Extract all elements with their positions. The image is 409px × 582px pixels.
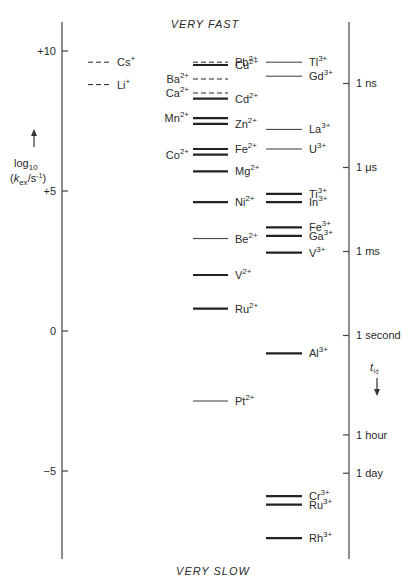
svg-text:log10: log10	[14, 157, 38, 172]
ion-label: Ga3+	[309, 228, 333, 242]
ion-label: Fe2+	[235, 141, 257, 155]
left-tick-label: −5	[43, 465, 56, 477]
left-tick-label: +5	[43, 185, 56, 197]
exchange-rate-chart: VERY FAST VERY SLOW +10+50−5 1 ns1 μs1 m…	[0, 0, 409, 582]
ion-label: Co2+	[166, 147, 190, 161]
svg-text:t½: t½	[370, 361, 379, 375]
very-fast-label: VERY FAST	[171, 18, 240, 30]
right-tick-label: 1 day	[356, 467, 383, 479]
svg-text:VERY SLOW: VERY SLOW	[176, 565, 250, 577]
ion-label: Ba2+	[166, 71, 189, 85]
ion-label: Al3+	[309, 345, 328, 359]
ion-label: La3+	[309, 121, 331, 135]
y-axis-label: log10 (kex/s-1)	[10, 129, 46, 187]
ion-label: V3+	[309, 245, 326, 259]
ion-label: Ru3+	[309, 497, 333, 511]
ion-label: V2+	[235, 267, 252, 281]
ion-label: Pt2+	[235, 393, 255, 407]
right-tick-label: 1 μs	[356, 161, 378, 173]
right-axis-ticks: 1 ns1 μs1 ms1 second1 hour1 day	[343, 77, 401, 479]
ion-label: Ru2+	[235, 301, 259, 315]
ion-label: U3+	[309, 141, 326, 155]
ion-label: Zn2+	[235, 116, 257, 130]
ion-markers: Cs+Li+Pb2+Cu2+Ba2+Ca2+Cd2+Mn2+Zn2+Fe2+Co…	[88, 54, 333, 544]
ion-label: Ca2+	[166, 85, 190, 99]
ion-label: Cs+	[117, 54, 135, 68]
ion-label: Cd2+	[235, 91, 259, 105]
ion-label: Mg2+	[235, 163, 260, 177]
ion-label: Cu2+	[235, 57, 259, 71]
ion-label: Li+	[117, 77, 131, 91]
down-arrow-head-icon	[374, 389, 380, 396]
left-tick-label: +10	[37, 45, 56, 57]
ion-label: Mn2+	[165, 110, 190, 124]
right-tick-label: 1 ns	[356, 77, 377, 89]
half-life-label: t½	[370, 361, 380, 396]
ion-label: Tl3+	[309, 54, 328, 68]
up-arrow-head-icon	[31, 129, 37, 136]
svg-text:(kex/s-1): (kex/s-1)	[10, 172, 46, 187]
left-tick-label: 0	[50, 325, 56, 337]
left-axis-ticks: +10+50−5	[37, 45, 68, 477]
right-tick-label: 1 second	[356, 329, 401, 341]
ion-label: In3+	[309, 194, 328, 208]
svg-text:VERY FAST: VERY FAST	[171, 18, 240, 30]
ion-label: Gd3+	[309, 68, 333, 82]
right-tick-label: 1 hour	[356, 429, 388, 441]
ion-label: Be2+	[235, 231, 258, 245]
ion-label: Rh3+	[309, 530, 333, 544]
right-tick-label: 1 ms	[356, 245, 380, 257]
very-slow-label: VERY SLOW	[176, 565, 250, 577]
ion-label: Ni2+	[235, 194, 255, 208]
